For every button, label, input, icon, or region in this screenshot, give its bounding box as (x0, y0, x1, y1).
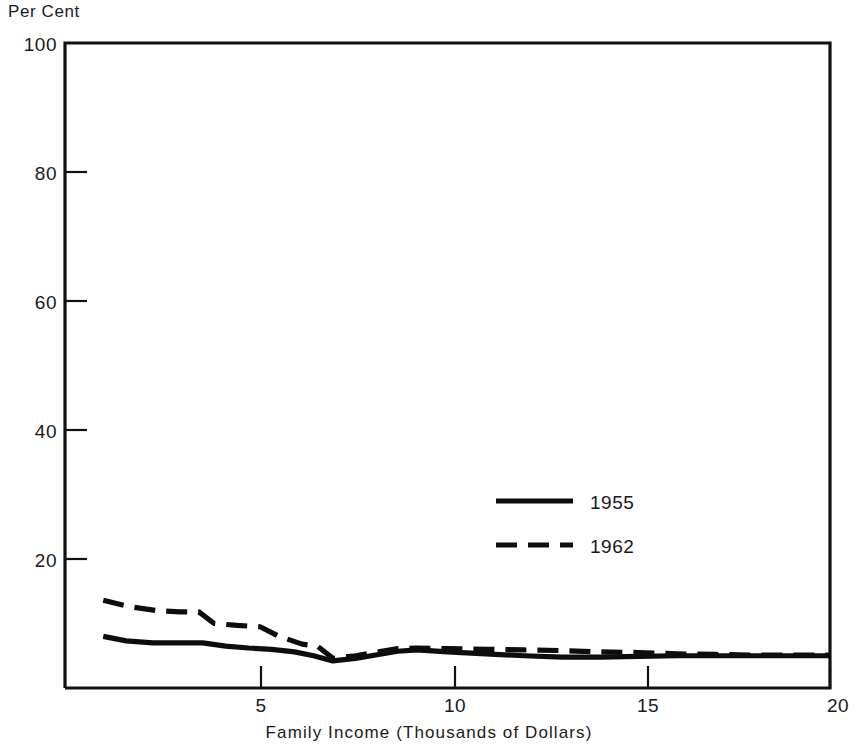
y-tick-label-60: 60 (35, 292, 57, 313)
x-axis-tick-labels: 5 10 15 20 (255, 695, 849, 716)
legend-label-1962: 1962 (590, 536, 634, 557)
x-tick-label-5: 5 (255, 695, 266, 716)
chart-figure: Per Cent 100 80 60 40 20 5 1 (0, 0, 858, 753)
series-line-1955 (103, 636, 830, 661)
series-line-1962 (103, 600, 830, 658)
plot-frame (65, 43, 830, 688)
y-axis-ticks (65, 172, 87, 559)
x-tick-label-10: 10 (444, 695, 466, 716)
line-chart-plot: 100 80 60 40 20 5 10 15 20 1955 1 (0, 0, 858, 753)
y-tick-label-20: 20 (35, 550, 57, 571)
chart-legend: 1955 1962 (496, 492, 634, 557)
x-tick-label-15: 15 (637, 695, 659, 716)
y-tick-label-80: 80 (35, 163, 57, 184)
x-tick-label-20: 20 (827, 695, 849, 716)
y-tick-label-100: 100 (24, 34, 57, 55)
x-axis-title: Family Income (Thousands of Dollars) (0, 723, 858, 743)
y-axis-tick-labels: 100 80 60 40 20 (24, 34, 57, 571)
x-axis-ticks (261, 666, 830, 688)
y-tick-label-40: 40 (35, 421, 57, 442)
legend-label-1955: 1955 (590, 492, 634, 513)
